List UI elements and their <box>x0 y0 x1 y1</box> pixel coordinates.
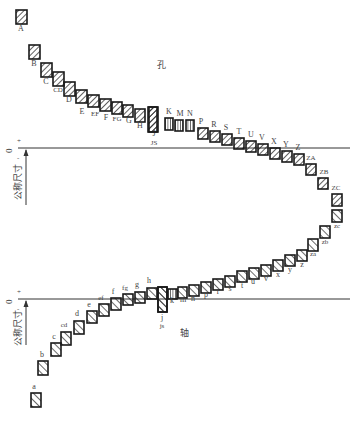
tolerance-zone-rect <box>165 118 173 130</box>
tolerance-zone-rect <box>38 361 48 375</box>
deviation-box-js: js <box>158 287 167 330</box>
deviation-box-U: U <box>246 130 256 152</box>
deviation-box-zb: zb <box>320 226 330 246</box>
deviation-box-f: f <box>111 287 121 310</box>
deviation-box-h: h <box>147 276 157 299</box>
deviation-label: p <box>204 290 208 299</box>
deviation-label: G <box>126 116 132 125</box>
deviation-box-e: e <box>87 300 97 323</box>
tolerance-zone-rect <box>158 287 167 312</box>
deviation-label: x <box>276 270 280 279</box>
tolerance-zone-rect <box>16 10 27 24</box>
deviation-label: A <box>18 24 24 33</box>
deviation-label: a <box>32 382 36 391</box>
hole-minus-mark: - <box>17 154 20 162</box>
tolerance-zone-rect <box>51 343 61 356</box>
deviation-box-M: M <box>175 109 184 131</box>
deviation-box-V: V <box>258 133 268 155</box>
tolerance-zone-rect <box>74 321 84 334</box>
shaft-axis-label: 公称尺寸 <box>12 310 23 346</box>
deviation-label: U <box>248 130 254 139</box>
tolerance-zone-rect <box>99 304 109 316</box>
deviation-box-r: r <box>213 279 223 296</box>
deviation-label: e <box>87 300 91 309</box>
tolerance-zone-rect <box>175 120 183 131</box>
deviation-label: h <box>147 276 151 285</box>
deviation-box-x: x <box>273 260 283 279</box>
deviation-label: ef <box>98 294 104 302</box>
deviation-label: Y <box>283 140 289 149</box>
tolerance-zone-rect <box>87 311 97 323</box>
deviation-box-fg: fg <box>122 284 133 305</box>
deviation-box-y: y <box>285 255 295 274</box>
deviation-label: CD <box>53 86 63 94</box>
deviation-box-d: d <box>74 309 84 334</box>
deviation-label: v <box>264 274 268 283</box>
deviation-label: M <box>176 109 183 118</box>
deviation-label: D <box>66 95 72 104</box>
deviation-label: f <box>112 287 115 296</box>
deviation-label: j <box>160 313 163 322</box>
deviation-label: n <box>191 294 195 303</box>
deviation-label: z <box>300 260 304 269</box>
deviation-box-E: E <box>76 90 87 116</box>
tolerance-zone-rect <box>246 141 256 152</box>
shaft-plus-mark: + <box>17 288 21 296</box>
deviation-label: c <box>52 332 56 341</box>
hole-zero-mark: 0 <box>4 148 14 153</box>
deviation-box-X: X <box>270 137 280 159</box>
tolerance-zone-rect <box>76 90 87 103</box>
tolerance-zone-rect <box>135 292 145 303</box>
deviation-label: F <box>104 113 109 122</box>
deviation-box-m: m <box>178 287 187 304</box>
tolerance-zone-rect <box>148 107 157 132</box>
shaft-zero-mark: 0 <box>4 299 14 304</box>
deviation-box-za: za <box>308 239 318 258</box>
hole-section: 0 + - 公称尺寸 孔 ABCCDDEEFFFGGHJJSKMNPRSTUVX… <box>4 10 350 206</box>
deviation-box-b: b <box>38 350 48 375</box>
deviation-box-CD: CD <box>53 72 64 94</box>
deviation-label: za <box>310 250 317 258</box>
tolerance-zone-rect <box>318 178 328 189</box>
deviation-label: N <box>187 109 193 118</box>
deviation-box-t: t <box>237 271 247 290</box>
deviation-box-ZA: ZA <box>306 154 316 175</box>
tolerance-zone-rect <box>61 332 71 345</box>
deviation-box-K: K <box>165 107 173 130</box>
deviation-label: S <box>224 123 228 132</box>
tolerance-zone-rect <box>332 210 342 222</box>
deviation-label: ZC <box>332 184 341 192</box>
deviation-box-JS: JS <box>148 107 157 147</box>
deviation-box-c: c <box>51 332 61 356</box>
deviation-label: V <box>259 133 265 142</box>
tolerance-zone-rect <box>198 128 208 139</box>
deviation-box-k: k <box>168 289 177 305</box>
deviation-box-C: C <box>41 63 52 86</box>
deviation-label: m <box>180 295 187 304</box>
tolerance-zone-rect <box>234 138 244 149</box>
deviation-box-G: G <box>123 105 133 125</box>
deviation-box-ZB: ZB <box>318 168 329 189</box>
shaft-arrow-head-icon <box>24 300 29 307</box>
deviation-label: js <box>159 322 165 330</box>
deviation-label: cd <box>61 321 68 329</box>
deviation-box-B: B <box>29 45 40 68</box>
deviation-box-D: D <box>64 82 75 104</box>
deviation-box-Z: Z <box>294 143 304 165</box>
tolerance-zone-rect <box>112 102 122 114</box>
tolerance-zone-rect <box>41 63 52 77</box>
tolerance-zone-rect <box>123 294 133 305</box>
tolerance-zone-rect <box>258 144 268 155</box>
deviation-label: y <box>288 265 292 274</box>
deviation-box-p: p <box>201 282 211 299</box>
deviation-label: K <box>166 107 172 116</box>
deviation-label: zb <box>322 238 329 246</box>
deviation-label: Z <box>296 143 301 152</box>
deviation-box-N: N <box>186 109 194 131</box>
hole-section-label: 孔 <box>157 60 166 70</box>
deviation-box-s: s <box>225 276 235 293</box>
tolerance-zone-rect <box>320 226 330 238</box>
hole-deviation-boxes: ABCCDDEEFFFGGHJJSKMNPRSTUVXYZZAZBZC <box>16 10 342 206</box>
deviation-box-Y: Y <box>282 140 292 162</box>
deviation-box-P: P <box>198 117 208 139</box>
